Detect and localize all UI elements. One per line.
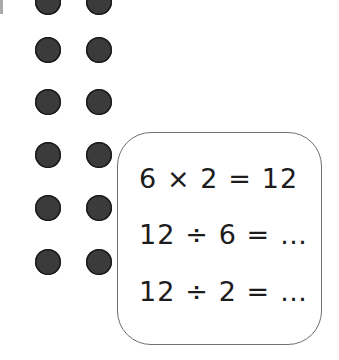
counter-array [0,0,130,360]
counter-dot [86,142,112,168]
counter-dot [35,249,61,275]
equation-card: 6 × 2 = 12 12 ÷ 6 = … 12 ÷ 2 = … [117,132,322,345]
counter-dot [86,249,112,275]
counter-dot [86,195,112,221]
equation-list: 6 × 2 = 12 12 ÷ 6 = … 12 ÷ 2 = … [118,133,321,344]
equation-line-division-by-six: 12 ÷ 6 = … [139,221,309,248]
counter-dot [86,37,112,63]
counter-dot [86,89,112,115]
figure-canvas: 6 × 2 = 12 12 ÷ 6 = … 12 ÷ 2 = … [0,0,339,360]
counter-dot [35,142,61,168]
counter-dot [35,0,61,15]
counter-dot [35,37,61,63]
counter-dot [35,195,61,221]
equation-line-multiplication: 6 × 2 = 12 [139,165,309,192]
counter-dot [35,89,61,115]
counter-dot [86,0,112,15]
equation-line-division-by-two: 12 ÷ 2 = … [139,278,309,305]
